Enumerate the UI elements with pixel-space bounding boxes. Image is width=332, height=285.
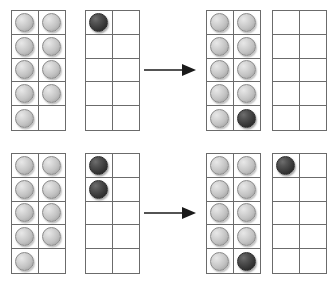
frame-cell[interactable] — [39, 82, 66, 106]
ten-frame-top-1[interactable] — [11, 10, 66, 131]
frame-cell[interactable] — [86, 225, 113, 249]
frame-cell[interactable] — [207, 202, 234, 226]
frame-cell[interactable] — [234, 202, 261, 226]
frame-cell[interactable] — [39, 202, 66, 226]
dark-counter[interactable] — [237, 109, 256, 128]
light-counter[interactable] — [15, 252, 34, 271]
frame-cell[interactable] — [39, 106, 66, 130]
frame-cell[interactable] — [234, 225, 261, 249]
light-counter[interactable] — [42, 13, 61, 32]
light-counter[interactable] — [237, 84, 256, 103]
light-counter[interactable] — [15, 60, 34, 79]
light-counter[interactable] — [15, 203, 34, 222]
frame-cell[interactable] — [300, 249, 327, 273]
light-counter[interactable] — [42, 60, 61, 79]
light-counter[interactable] — [237, 37, 256, 56]
dark-counter[interactable] — [89, 13, 108, 32]
dark-counter[interactable] — [89, 156, 108, 175]
ten-frame-bottom-1[interactable] — [11, 153, 66, 274]
ten-frame-bottom-2[interactable] — [85, 153, 140, 274]
light-counter[interactable] — [42, 37, 61, 56]
frame-cell[interactable] — [39, 249, 66, 273]
light-counter[interactable] — [210, 84, 229, 103]
frame-cell[interactable] — [113, 249, 140, 273]
frame-cell[interactable] — [207, 225, 234, 249]
light-counter[interactable] — [210, 37, 229, 56]
frame-cell[interactable] — [207, 11, 234, 35]
light-counter[interactable] — [237, 203, 256, 222]
frame-cell[interactable] — [113, 82, 140, 106]
frame-cell[interactable] — [113, 202, 140, 226]
frame-cell[interactable] — [113, 178, 140, 202]
light-counter[interactable] — [15, 13, 34, 32]
frame-cell[interactable] — [300, 82, 327, 106]
frame-cell[interactable] — [207, 178, 234, 202]
frame-cell[interactable] — [273, 202, 300, 226]
light-counter[interactable] — [42, 227, 61, 246]
frame-cell[interactable] — [12, 249, 39, 273]
frame-cell[interactable] — [12, 225, 39, 249]
frame-cell[interactable] — [234, 178, 261, 202]
frame-cell[interactable] — [300, 154, 327, 178]
frame-cell[interactable] — [207, 35, 234, 59]
light-counter[interactable] — [210, 13, 229, 32]
frame-cell[interactable] — [39, 178, 66, 202]
frame-cell[interactable] — [86, 11, 113, 35]
light-counter[interactable] — [210, 60, 229, 79]
light-counter[interactable] — [42, 203, 61, 222]
ten-frame-top-2[interactable] — [85, 10, 140, 131]
light-counter[interactable] — [42, 180, 61, 199]
light-counter[interactable] — [237, 156, 256, 175]
frame-cell[interactable] — [300, 11, 327, 35]
frame-cell[interactable] — [12, 82, 39, 106]
frame-cell[interactable] — [12, 59, 39, 83]
ten-frame-top-3[interactable] — [206, 10, 261, 131]
frame-cell[interactable] — [12, 202, 39, 226]
frame-cell[interactable] — [273, 154, 300, 178]
frame-cell[interactable] — [113, 59, 140, 83]
frame-cell[interactable] — [86, 59, 113, 83]
frame-cell[interactable] — [300, 178, 327, 202]
frame-cell[interactable] — [12, 106, 39, 130]
light-counter[interactable] — [210, 252, 229, 271]
frame-cell[interactable] — [273, 11, 300, 35]
frame-cell[interactable] — [86, 202, 113, 226]
frame-cell[interactable] — [113, 106, 140, 130]
light-counter[interactable] — [42, 156, 61, 175]
frame-cell[interactable] — [12, 154, 39, 178]
light-counter[interactable] — [210, 109, 229, 128]
ten-frame-bottom-3[interactable] — [206, 153, 261, 274]
frame-cell[interactable] — [234, 11, 261, 35]
light-counter[interactable] — [237, 180, 256, 199]
frame-cell[interactable] — [234, 35, 261, 59]
frame-cell[interactable] — [39, 154, 66, 178]
ten-frame-bottom-4[interactable] — [272, 153, 327, 274]
light-counter[interactable] — [237, 13, 256, 32]
frame-cell[interactable] — [113, 11, 140, 35]
frame-cell[interactable] — [207, 249, 234, 273]
light-counter[interactable] — [15, 109, 34, 128]
frame-cell[interactable] — [86, 106, 113, 130]
frame-cell[interactable] — [273, 106, 300, 130]
frame-cell[interactable] — [207, 82, 234, 106]
frame-cell[interactable] — [273, 82, 300, 106]
light-counter[interactable] — [15, 156, 34, 175]
frame-cell[interactable] — [39, 11, 66, 35]
frame-cell[interactable] — [300, 225, 327, 249]
dark-counter[interactable] — [276, 156, 295, 175]
frame-cell[interactable] — [273, 225, 300, 249]
light-counter[interactable] — [237, 227, 256, 246]
frame-cell[interactable] — [113, 154, 140, 178]
light-counter[interactable] — [15, 84, 34, 103]
frame-cell[interactable] — [273, 35, 300, 59]
frame-cell[interactable] — [39, 35, 66, 59]
frame-cell[interactable] — [39, 59, 66, 83]
light-counter[interactable] — [210, 227, 229, 246]
light-counter[interactable] — [42, 84, 61, 103]
light-counter[interactable] — [15, 37, 34, 56]
light-counter[interactable] — [15, 227, 34, 246]
frame-cell[interactable] — [300, 202, 327, 226]
dark-counter[interactable] — [89, 180, 108, 199]
light-counter[interactable] — [210, 203, 229, 222]
frame-cell[interactable] — [273, 59, 300, 83]
